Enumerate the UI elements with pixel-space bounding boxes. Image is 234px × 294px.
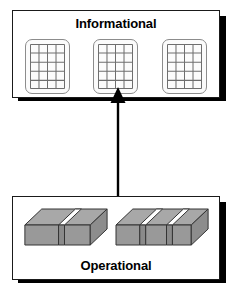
informational-title: Informational [13,16,219,31]
informational-panel-shadow-right [220,16,226,101]
operational-block-left [25,209,107,245]
table-grid-icon [167,44,202,89]
table-grid-icon-3[interactable] [162,39,207,94]
flow-arrow [104,86,132,202]
architecture-diagram: Informational [0,0,234,294]
operational-panel-shadow-right [220,202,226,283]
operational-title: Operational [13,258,219,273]
operational-layer-panel[interactable]: Operational [12,196,220,280]
table-grid-icon-1[interactable] [25,39,70,94]
operational-block-right [116,209,208,245]
table-grid-icon [98,44,133,89]
operational-icon-row [13,203,219,255]
informational-layer-panel[interactable]: Informational [12,10,220,98]
table-grid-icon [30,44,65,89]
